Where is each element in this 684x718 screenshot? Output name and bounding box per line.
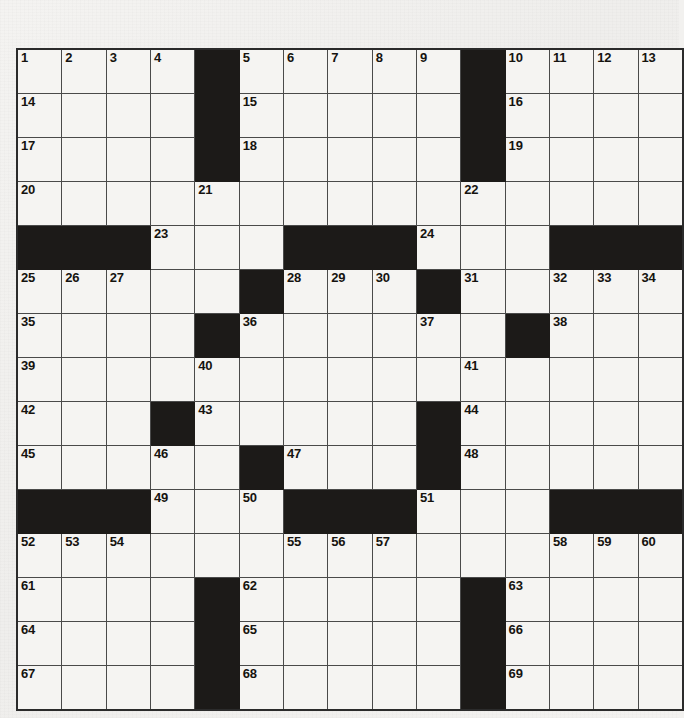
crossword-cell[interactable]	[416, 578, 460, 622]
crossword-cell[interactable]	[283, 94, 327, 138]
crossword-cell[interactable]	[505, 446, 549, 490]
crossword-cell[interactable]	[638, 446, 683, 490]
crossword-cell[interactable]	[549, 622, 593, 666]
crossword-cell[interactable]	[638, 182, 683, 226]
crossword-cell[interactable]	[328, 182, 372, 226]
crossword-cell[interactable]	[505, 534, 549, 578]
crossword-cell[interactable]: 27	[106, 270, 150, 314]
crossword-cell[interactable]: 68	[239, 666, 283, 711]
crossword-cell[interactable]: 16	[505, 94, 549, 138]
crossword-cell[interactable]	[372, 622, 416, 666]
crossword-cell[interactable]	[150, 138, 194, 182]
crossword-cell[interactable]: 15	[239, 94, 283, 138]
crossword-cell[interactable]	[195, 270, 239, 314]
crossword-cell[interactable]: 23	[150, 226, 194, 270]
crossword-cell[interactable]: 69	[505, 666, 549, 711]
crossword-cell[interactable]	[195, 534, 239, 578]
crossword-cell[interactable]: 51	[416, 490, 460, 534]
crossword-cell[interactable]: 36	[239, 314, 283, 358]
crossword-cell[interactable]	[239, 534, 283, 578]
crossword-cell[interactable]: 41	[461, 358, 505, 402]
crossword-cell[interactable]: 12	[594, 49, 638, 94]
crossword-cell[interactable]	[594, 358, 638, 402]
crossword-cell[interactable]	[594, 138, 638, 182]
crossword-cell[interactable]	[594, 182, 638, 226]
crossword-cell[interactable]	[461, 490, 505, 534]
crossword-cell[interactable]	[416, 622, 460, 666]
crossword-cell[interactable]: 33	[594, 270, 638, 314]
crossword-cell[interactable]	[372, 402, 416, 446]
crossword-cell[interactable]	[62, 622, 106, 666]
crossword-cell[interactable]	[106, 182, 150, 226]
crossword-cell[interactable]: 25	[17, 270, 62, 314]
crossword-cell[interactable]	[239, 402, 283, 446]
crossword-cell[interactable]: 39	[17, 358, 62, 402]
crossword-cell[interactable]: 6	[283, 49, 327, 94]
crossword-cell[interactable]	[283, 138, 327, 182]
crossword-cell[interactable]	[62, 94, 106, 138]
crossword-cell[interactable]	[549, 578, 593, 622]
crossword-cell[interactable]: 14	[17, 94, 62, 138]
crossword-cell[interactable]	[283, 358, 327, 402]
crossword-cell[interactable]	[638, 578, 683, 622]
crossword-cell[interactable]	[594, 446, 638, 490]
crossword-cell[interactable]: 40	[195, 358, 239, 402]
crossword-cell[interactable]	[239, 226, 283, 270]
crossword-cell[interactable]: 61	[17, 578, 62, 622]
crossword-cell[interactable]: 50	[239, 490, 283, 534]
crossword-cell[interactable]	[106, 358, 150, 402]
crossword-cell[interactable]: 58	[549, 534, 593, 578]
crossword-cell[interactable]: 54	[106, 534, 150, 578]
crossword-cell[interactable]	[638, 622, 683, 666]
crossword-cell[interactable]: 28	[283, 270, 327, 314]
crossword-cell[interactable]: 3	[106, 49, 150, 94]
crossword-cell[interactable]: 60	[638, 534, 683, 578]
crossword-cell[interactable]: 57	[372, 534, 416, 578]
crossword-cell[interactable]	[239, 358, 283, 402]
crossword-cell[interactable]: 43	[195, 402, 239, 446]
crossword-cell[interactable]	[505, 490, 549, 534]
crossword-cell[interactable]: 52	[17, 534, 62, 578]
crossword-cell[interactable]	[62, 578, 106, 622]
crossword-cell[interactable]	[195, 490, 239, 534]
crossword-cell[interactable]	[549, 358, 593, 402]
crossword-cell[interactable]: 20	[17, 182, 62, 226]
crossword-cell[interactable]: 24	[416, 226, 460, 270]
crossword-cell[interactable]	[328, 94, 372, 138]
crossword-cell[interactable]	[106, 446, 150, 490]
crossword-cell[interactable]	[195, 226, 239, 270]
crossword-cell[interactable]: 34	[638, 270, 683, 314]
crossword-cell[interactable]	[150, 182, 194, 226]
crossword-cell[interactable]: 63	[505, 578, 549, 622]
crossword-cell[interactable]	[505, 402, 549, 446]
crossword-cell[interactable]: 2	[62, 49, 106, 94]
crossword-cell[interactable]	[106, 402, 150, 446]
crossword-cell[interactable]: 59	[594, 534, 638, 578]
crossword-cell[interactable]	[106, 666, 150, 711]
crossword-cell[interactable]: 64	[17, 622, 62, 666]
crossword-cell[interactable]	[594, 94, 638, 138]
crossword-cell[interactable]: 42	[17, 402, 62, 446]
crossword-cell[interactable]: 49	[150, 490, 194, 534]
crossword-cell[interactable]: 62	[239, 578, 283, 622]
crossword-cell[interactable]: 37	[416, 314, 460, 358]
crossword-cell[interactable]: 19	[505, 138, 549, 182]
crossword-cell[interactable]	[328, 446, 372, 490]
crossword-cell[interactable]	[106, 578, 150, 622]
crossword-cell[interactable]	[549, 182, 593, 226]
crossword-cell[interactable]	[372, 94, 416, 138]
crossword-cell[interactable]	[106, 622, 150, 666]
crossword-cell[interactable]	[150, 534, 194, 578]
crossword-cell[interactable]	[594, 314, 638, 358]
crossword-cell[interactable]	[328, 358, 372, 402]
crossword-cell[interactable]	[372, 358, 416, 402]
crossword-cell[interactable]	[461, 226, 505, 270]
crossword-cell[interactable]: 56	[328, 534, 372, 578]
crossword-cell[interactable]	[416, 534, 460, 578]
crossword-cell[interactable]: 67	[17, 666, 62, 711]
crossword-cell[interactable]	[62, 138, 106, 182]
crossword-cell[interactable]	[62, 446, 106, 490]
crossword-cell[interactable]: 45	[17, 446, 62, 490]
crossword-cell[interactable]	[638, 314, 683, 358]
crossword-cell[interactable]	[638, 666, 683, 711]
